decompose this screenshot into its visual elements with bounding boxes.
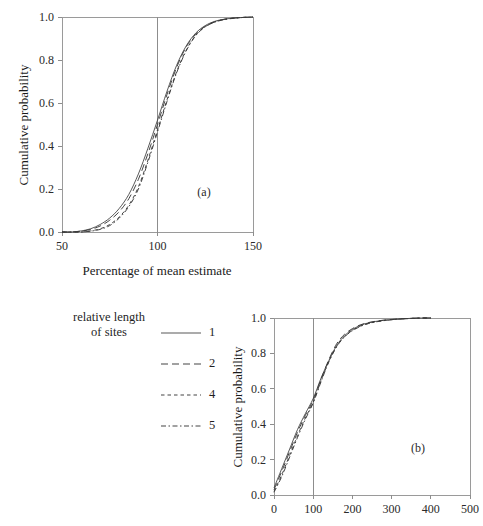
x-tick-label: 300 <box>383 502 401 516</box>
x-tick-label: 0 <box>271 502 277 516</box>
panel-b-ylabel: Cumulative probability <box>230 346 245 467</box>
legend-title: relative length of sites <box>50 310 168 340</box>
y-tick-label: 0.8 <box>251 346 266 360</box>
y-tick-label: 0.4 <box>251 417 266 431</box>
y-tick-label: 0.0 <box>39 225 54 239</box>
curve-series-5 <box>274 318 431 492</box>
x-tick-label: 400 <box>422 502 440 516</box>
x-tick-label: 150 <box>244 239 262 253</box>
panel-a-xlabel: Percentage of mean estimate <box>82 263 231 278</box>
legend: relative length of sites 1245 <box>42 305 242 445</box>
x-tick-label: 500 <box>461 502 479 516</box>
legend-key-label: 4 <box>209 387 215 402</box>
x-tick-label: 100 <box>304 502 322 516</box>
y-tick-label: 1.0 <box>251 311 266 325</box>
legend-line-swatch <box>160 327 202 339</box>
legend-key-label: 2 <box>209 356 215 371</box>
curve-series-4 <box>274 318 431 491</box>
legend-line-swatch <box>160 389 202 401</box>
x-tick-label: 200 <box>343 502 361 516</box>
legend-line-swatch <box>160 420 202 432</box>
panel-b-canvas: 0.00.20.40.60.81.00100200300400500 Cumul… <box>228 300 483 526</box>
curve-series-1 <box>274 318 431 488</box>
y-tick-label: 0.0 <box>251 488 266 502</box>
y-tick-label: 0.2 <box>251 453 266 467</box>
panel-a-canvas: 0.00.20.40.60.81.050100150 Cumulative pr… <box>0 0 270 290</box>
x-tick-label: 100 <box>149 239 167 253</box>
curve-series-2 <box>274 318 431 490</box>
panel-a-tag: (a) <box>197 185 210 199</box>
panel-b: 0.00.20.40.60.81.00100200300400500 Cumul… <box>228 300 483 526</box>
y-tick-label: 0.6 <box>39 96 54 110</box>
y-tick-label: 0.8 <box>39 53 54 67</box>
legend-title-line-1: relative length <box>50 310 168 325</box>
y-tick-label: 1.0 <box>39 10 54 24</box>
panel-a: 0.00.20.40.60.81.050100150 Cumulative pr… <box>0 0 270 290</box>
legend-key-label: 1 <box>209 325 215 340</box>
y-tick-label: 0.6 <box>251 382 266 396</box>
y-tick-label: 0.2 <box>39 182 54 196</box>
legend-title-line-2: of sites <box>50 325 168 340</box>
figure-root: 0.00.20.40.60.81.050100150 Cumulative pr… <box>0 0 483 526</box>
panel-a-ylabel: Cumulative probability <box>16 64 31 185</box>
legend-line-swatch <box>160 358 202 370</box>
x-tick-label: 50 <box>56 239 68 253</box>
legend-key-label: 5 <box>209 418 215 433</box>
y-tick-label: 0.4 <box>39 139 54 153</box>
panel-b-tag: (b) <box>411 441 425 455</box>
